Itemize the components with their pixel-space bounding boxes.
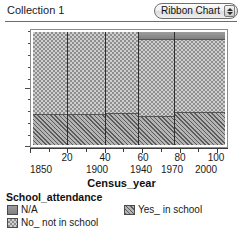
ribbon-chart-window: Collection 1 Ribbon Chart	[0, 0, 243, 232]
legend-label: Yes_ in school	[138, 204, 202, 216]
x-axis-tick-labels-secondary: 1850 1900 1940 1970 2000	[0, 164, 243, 177]
segment-boundary	[139, 116, 174, 117]
legend-item-yes-in-school[interactable]: Yes_ in school	[124, 204, 202, 216]
legend-swatch-no-icon	[7, 218, 18, 228]
x-tick-label: 60	[137, 152, 148, 164]
segment-boundary	[106, 113, 138, 114]
chart-type-stepper[interactable]	[224, 5, 235, 17]
legend-label: No_ not in school	[21, 217, 98, 229]
segment-yes-in-school[interactable]	[33, 114, 67, 145]
x-tick-label: 20	[61, 152, 72, 164]
segment-boundary	[33, 114, 67, 115]
plot-canvas	[33, 32, 225, 145]
segment-no-not-in-school[interactable]	[106, 32, 138, 113]
triangle-up-icon[interactable]	[227, 8, 233, 11]
plot-area[interactable]	[30, 29, 228, 148]
band-2000[interactable]	[175, 32, 225, 145]
stacked-band-group	[33, 32, 225, 145]
band-1850[interactable]	[33, 32, 68, 145]
x-year-label: 1940	[130, 164, 152, 176]
legend-item-na[interactable]: N/A	[7, 204, 38, 216]
x-axis-tick-labels-primary: 20 40 60 80 100	[0, 152, 243, 164]
legend-title: School_attendance	[6, 191, 102, 203]
header-divider	[5, 21, 237, 22]
segment-boundary	[139, 39, 174, 40]
chart-header: Collection 1 Ribbon Chart	[0, 0, 243, 30]
triangle-down-icon[interactable]	[227, 12, 233, 15]
x-tick-label: 40	[99, 152, 110, 164]
legend-label: N/A	[21, 204, 38, 216]
x-tick-label: 100	[208, 152, 225, 164]
band-1940[interactable]	[106, 32, 139, 145]
x-year-label: 2000	[195, 164, 217, 176]
segment-boundary	[175, 39, 225, 40]
segment-no-not-in-school[interactable]	[68, 32, 105, 114]
chart-type-label: Ribbon Chart	[161, 4, 224, 18]
segment-boundary	[175, 112, 225, 113]
page-title: Collection 1	[7, 4, 64, 17]
legend-swatch-na-icon	[7, 205, 18, 215]
band-1970[interactable]	[139, 32, 175, 145]
segment-no-not-in-school[interactable]	[139, 39, 174, 116]
segment-na[interactable]	[175, 32, 225, 39]
band-1900[interactable]	[68, 32, 106, 145]
x-tick-label: 80	[174, 152, 185, 164]
segment-na[interactable]	[139, 32, 174, 39]
legend: School_attendance N/A No_ not in school …	[6, 191, 243, 232]
segment-yes-in-school[interactable]	[68, 114, 105, 145]
chart-type-dropdown[interactable]: Ribbon Chart	[154, 3, 238, 19]
x-year-label: 1970	[161, 164, 183, 176]
x-year-label: 1900	[86, 164, 108, 176]
legend-swatch-yes-icon	[124, 205, 135, 215]
segment-yes-in-school[interactable]	[139, 116, 174, 145]
segment-boundary	[68, 114, 105, 115]
segment-no-not-in-school[interactable]	[175, 39, 225, 112]
segment-yes-in-school[interactable]	[175, 112, 225, 145]
x-year-label: 1850	[30, 164, 52, 176]
x-axis-title: Census_year	[0, 177, 243, 189]
segment-yes-in-school[interactable]	[106, 113, 138, 145]
legend-item-no-not-in-school[interactable]: No_ not in school	[7, 217, 98, 229]
segment-no-not-in-school[interactable]	[33, 32, 67, 114]
